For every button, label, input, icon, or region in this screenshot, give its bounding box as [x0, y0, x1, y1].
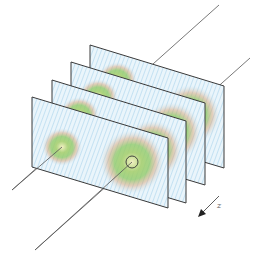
field-planes-diagram — [0, 0, 260, 261]
z-direction-arrow — [198, 196, 219, 217]
z-axis-label: z — [217, 201, 221, 210]
